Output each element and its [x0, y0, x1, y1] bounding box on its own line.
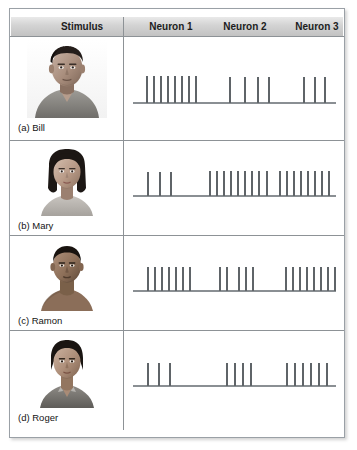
spike [303, 77, 305, 103]
spike [285, 267, 287, 291]
spike [167, 76, 169, 103]
spike [324, 77, 326, 103]
column-header-bar: Stimulus Neuron 1 Neuron 2 Neuron 3 [11, 17, 343, 36]
portrait-ramon-image [29, 241, 105, 311]
spike [321, 171, 323, 196]
stimulus-label-ramon: (c) Ramon [18, 315, 62, 326]
column-header-neuron-3: Neuron 3 [281, 17, 353, 36]
spike [313, 267, 315, 291]
spike [266, 171, 268, 196]
raster-baseline-bill [133, 102, 336, 104]
spike [242, 363, 244, 386]
spike [307, 171, 309, 196]
spike [146, 76, 148, 103]
spike [251, 171, 253, 196]
spike [328, 171, 330, 196]
raster-baseline-mary [133, 195, 336, 197]
column-header-neuron-1: Neuron 1 [135, 17, 207, 36]
spike [189, 267, 191, 291]
spike [286, 363, 288, 386]
portrait-roger [10, 336, 123, 408]
stimulus-row-ramon: (c) Ramon [10, 241, 123, 329]
stimulus-column-divider [123, 17, 124, 430]
spike [314, 171, 316, 196]
row-divider-header [10, 36, 344, 37]
portrait-mary-image [29, 146, 105, 216]
spike [226, 363, 228, 386]
raster-mary [133, 155, 336, 197]
spike [219, 267, 221, 291]
stimulus-row-mary: (b) Mary [10, 146, 123, 234]
spike [268, 77, 270, 103]
stimulus-label-mary: (b) Mary [18, 220, 53, 231]
row-divider-ramon-roger [10, 330, 344, 331]
spike [195, 76, 197, 103]
stimulus-row-bill: (a) Bill [10, 40, 123, 138]
spike [293, 171, 295, 196]
spike [153, 76, 155, 103]
spike [250, 363, 252, 386]
spike [229, 77, 231, 103]
row-divider-bill-mary [10, 140, 344, 141]
spike [318, 363, 320, 386]
spike [237, 171, 239, 196]
spike [245, 267, 247, 291]
stimulus-label-roger: (d) Roger [18, 412, 58, 423]
spike [216, 171, 218, 196]
neural-coding-figure: Stimulus Neuron 1 Neuron 2 Neuron 3 [0, 0, 357, 450]
portrait-mary [10, 146, 123, 216]
spike [257, 77, 259, 103]
portrait-bill-image [27, 40, 107, 118]
column-header-stimulus: Stimulus [35, 17, 129, 36]
stimulus-row-roger: (d) Roger [10, 336, 123, 428]
spike [168, 267, 170, 291]
spike [279, 171, 281, 196]
spike [300, 171, 302, 196]
spike [170, 172, 172, 196]
spike [258, 171, 260, 196]
spike [334, 267, 336, 291]
spike [182, 267, 184, 291]
spike [158, 363, 160, 386]
column-header-neuron-2: Neuron 2 [209, 17, 281, 36]
row-divider-mary-ramon [10, 235, 344, 236]
spike [223, 171, 225, 196]
raster-roger [133, 345, 336, 387]
portrait-bill [10, 40, 123, 118]
spike [147, 172, 149, 196]
spike [230, 171, 232, 196]
spike [302, 363, 304, 386]
spike [299, 267, 301, 291]
spike [286, 171, 288, 196]
spike [147, 363, 149, 386]
spike [294, 363, 296, 386]
spike [147, 267, 149, 291]
spike [154, 267, 156, 291]
spike [226, 267, 228, 291]
stimulus-label-bill: (a) Bill [18, 122, 45, 133]
spike [244, 171, 246, 196]
spike [292, 267, 294, 291]
spike [159, 172, 161, 196]
spike [188, 76, 190, 103]
spike [306, 267, 308, 291]
raster-bill [133, 62, 336, 104]
spike [175, 267, 177, 291]
spike [244, 77, 246, 103]
spike [314, 77, 316, 103]
spike [161, 267, 163, 291]
spike [174, 76, 176, 103]
spike [252, 267, 254, 291]
spike [310, 363, 312, 386]
spike [181, 76, 183, 103]
spike [326, 363, 328, 386]
raster-ramon [133, 250, 336, 292]
spike [160, 76, 162, 103]
spike [327, 267, 329, 291]
portrait-roger-image [29, 336, 105, 408]
portrait-ramon [10, 241, 123, 311]
spike [209, 171, 211, 196]
spike [238, 267, 240, 291]
spike [234, 363, 236, 386]
spike [169, 363, 171, 386]
